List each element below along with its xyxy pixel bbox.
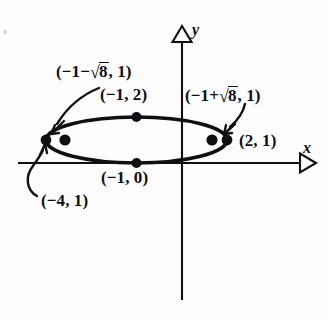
label-right-focus-prefix: (−1+ xyxy=(185,86,219,105)
sqrt-radical-right: √8 xyxy=(219,86,238,104)
label-right-focus-suffix: , 1) xyxy=(238,86,261,105)
leader-arrow-right-focus xyxy=(224,104,245,134)
label-left-vertex: (−4, 1) xyxy=(41,192,88,209)
label-left-focus-suffix: , 1) xyxy=(109,62,132,81)
x-axis-label: x xyxy=(303,140,311,156)
label-left-focus-prefix: (−1− xyxy=(56,62,90,81)
scan-speckle xyxy=(3,30,7,34)
y-axis-label: y xyxy=(192,22,199,38)
point-right-focus xyxy=(206,134,217,145)
x-axis-arrowhead xyxy=(300,154,316,173)
point-top-covertex xyxy=(132,112,142,122)
ellipse-curve xyxy=(46,117,227,163)
label-bottom-covertex: (−1, 0) xyxy=(101,169,148,186)
point-bottom-covertex xyxy=(132,158,142,168)
label-top-covertex: (−1, 2) xyxy=(100,86,147,103)
point-left-focus xyxy=(59,134,70,145)
label-right-focus: (−1+√8, 1) xyxy=(185,86,261,104)
label-right-vertex: (2, 1) xyxy=(239,132,276,149)
radicand-left: 8 xyxy=(99,62,109,80)
radicand-right: 8 xyxy=(228,86,238,104)
leader-arrow-left-vertex xyxy=(28,144,47,196)
figure-canvas: .ink { stroke:#101014; fill:none; } .ink… xyxy=(0,0,328,319)
point-right-vertex xyxy=(222,135,233,146)
leader-arrow-left-focus xyxy=(51,88,99,134)
sqrt-radical-left: √8 xyxy=(90,62,109,80)
label-left-focus: (−1−√8, 1) xyxy=(56,62,132,80)
ellipse-figure: .ink { stroke:#101014; fill:none; } .ink… xyxy=(0,0,328,319)
y-axis-arrowhead xyxy=(173,26,192,42)
